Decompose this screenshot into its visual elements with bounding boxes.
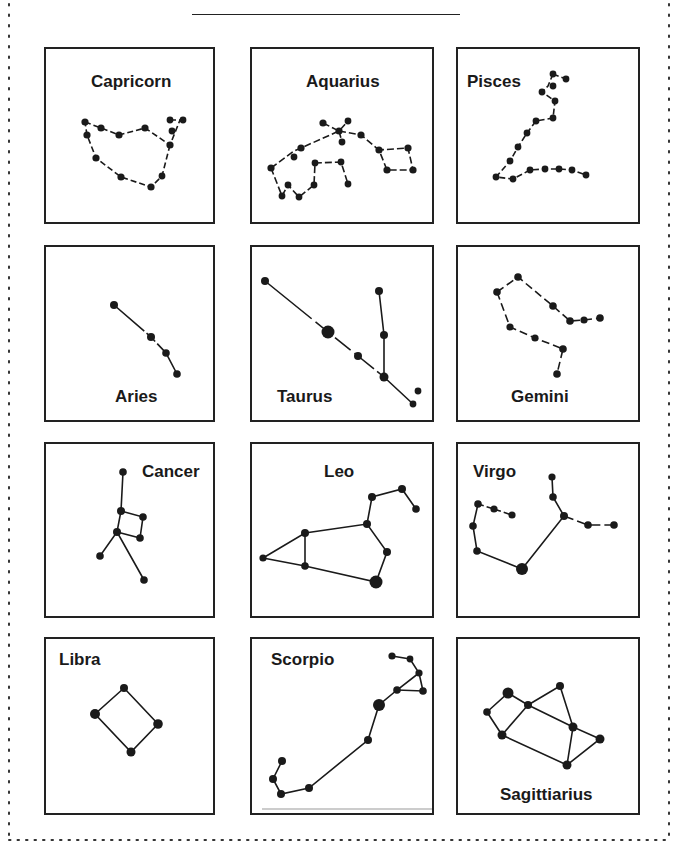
scorpio-lines <box>273 656 423 794</box>
pisces-stars <box>493 71 590 183</box>
taurus-lines <box>265 281 413 404</box>
cancer-lines <box>100 472 144 580</box>
sagittiarius-lines <box>487 686 600 765</box>
aries-lines <box>114 305 177 374</box>
leo-lines <box>263 489 416 582</box>
constellation-star-map <box>0 0 681 853</box>
capricorn-stars <box>81 117 186 191</box>
worksheet-page: Capricorn Aquarius Pisces Aries Taurus G… <box>0 0 681 853</box>
virgo-lines <box>473 477 614 569</box>
libra-lines <box>95 688 158 752</box>
leo-stars <box>259 485 419 589</box>
gemini-stars <box>493 273 604 378</box>
aries-stars <box>110 301 181 378</box>
scorpio-stars <box>269 652 427 798</box>
